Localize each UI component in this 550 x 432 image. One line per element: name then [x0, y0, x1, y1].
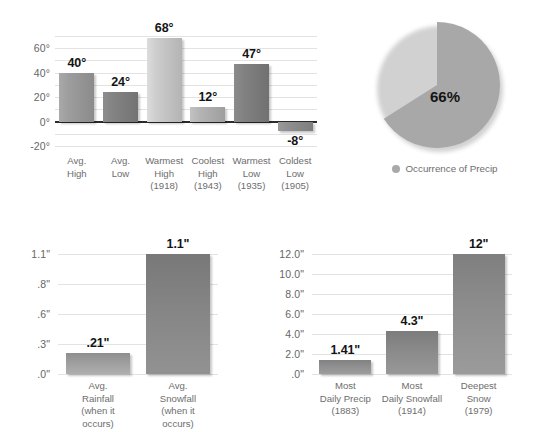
pie-center-label: 66%: [430, 88, 460, 105]
bar-2: [453, 254, 505, 374]
pie-legend: Occurrence of Precip: [340, 163, 550, 174]
legend-dot-icon: [392, 165, 400, 173]
value-label-1: 1.1": [146, 237, 210, 251]
value-label-3: 12°: [190, 90, 225, 104]
y-tick-3: .3": [6, 338, 50, 350]
bar-0: [66, 353, 130, 374]
category-label-line: Coldest: [268, 155, 322, 168]
y-tick-3: 6.0": [252, 308, 304, 320]
average-precip-y-axis: 1.1".8".6".3".0": [6, 254, 50, 374]
pie-graphic: 66%: [374, 22, 500, 148]
value-label-5: -8°: [278, 134, 313, 148]
y-tick-6: .0": [252, 368, 304, 380]
y-tick-3: 0°: [8, 116, 50, 128]
category-label-line: (when it: [128, 405, 227, 418]
category-label-line: (1905): [268, 180, 322, 193]
temperature-chart: 60°40°20°0°-20° 40°24°68°12°47°-8° Avg.H…: [0, 0, 340, 205]
bar-3: [190, 107, 225, 122]
category-label-line: (1979): [437, 405, 520, 418]
y-tick-1: .8": [6, 278, 50, 290]
gridline-4: [55, 85, 317, 86]
value-label-0: 1.41": [319, 343, 371, 357]
value-label-1: 4.3": [386, 314, 438, 328]
category-label-2: DeepestSnow(1979): [437, 380, 520, 418]
y-tick-1: 10.0": [252, 268, 304, 280]
gridline-3: [55, 73, 317, 74]
value-label-4: 47°: [234, 47, 269, 61]
category-label-5: ColdestLow(1905): [268, 155, 322, 193]
legend-label-precip: Occurrence of Precip: [405, 163, 497, 174]
bar-2: [147, 38, 182, 121]
bar-1: [386, 331, 438, 374]
gridline-6: [55, 109, 317, 110]
average-precip-plot-area: .21"1.1": [58, 254, 218, 374]
record-precip-y-axis: 12.0"10.0"8.0"6.0"4.0"2.0".0": [252, 254, 304, 374]
y-tick-4: -20°: [8, 140, 50, 152]
category-label-line: occurs): [128, 418, 227, 431]
bar-5: [278, 122, 313, 132]
y-tick-2: 8.0": [252, 288, 304, 300]
value-label-2: 68°: [147, 21, 182, 35]
value-label-0: 40°: [59, 56, 94, 70]
category-label-1: Avg.Snowfall(when itoccurs): [128, 380, 227, 430]
category-label-line: Low: [268, 168, 322, 181]
value-label-1: 24°: [103, 75, 138, 89]
pie-slice-precip: [384, 22, 500, 148]
bar-1: [103, 92, 138, 121]
category-label-line: Avg.: [128, 380, 227, 393]
bar-0: [59, 73, 94, 122]
gridline-5: [55, 97, 317, 98]
gridline-4: [58, 374, 218, 375]
value-label-2: 12": [453, 237, 505, 251]
bar-0: [319, 360, 371, 374]
precip-occurrence-chart: 66% Occurrence of Precip: [340, 0, 550, 205]
y-tick-4: 4.0": [252, 328, 304, 340]
y-tick-5: 2.0": [252, 348, 304, 360]
gridline-0: [55, 36, 317, 37]
record-precip-chart: 12.0"10.0"8.0"6.0"4.0"2.0".0" 1.41"4.3"1…: [250, 222, 550, 432]
category-label-line: Snowfall: [128, 393, 227, 406]
temperature-plot-area: 40°24°68°12°47°-8°: [55, 36, 317, 146]
y-tick-2: .6": [6, 308, 50, 320]
category-label-line: Snow: [437, 393, 520, 406]
category-label-line: Deepest: [437, 380, 520, 393]
bar-4: [234, 64, 269, 121]
bar-1: [146, 254, 210, 374]
average-precip-chart: 1.1".8".6".3".0" .21"1.1" Avg.Rainfall(w…: [0, 222, 250, 432]
y-tick-0: 60°: [8, 42, 50, 54]
value-label-0: .21": [66, 336, 130, 350]
y-tick-1: 40°: [8, 67, 50, 79]
record-precip-plot-area: 1.41"4.3"12": [312, 254, 512, 374]
y-tick-4: .0": [6, 368, 50, 380]
pie-svg: [374, 22, 500, 148]
temperature-y-axis: 60°40°20°0°-20°: [8, 36, 50, 146]
y-tick-0: 1.1": [6, 248, 50, 260]
y-tick-2: 20°: [8, 91, 50, 103]
gridline-6: [312, 374, 512, 375]
y-tick-0: 12.0": [252, 248, 304, 260]
gridline-1: [55, 48, 317, 49]
gridline-2: [55, 60, 317, 61]
